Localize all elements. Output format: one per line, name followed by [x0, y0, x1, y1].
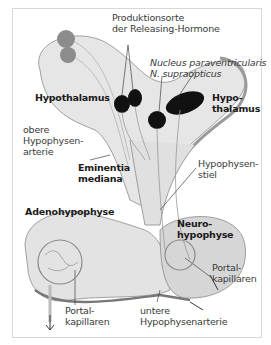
- label-hypothalamus-right: Hypo- thalamus: [212, 92, 260, 114]
- label-hypophysenstiel: Hypophysen- stiel: [198, 158, 258, 180]
- label-neurohypophyse: Neuro- hypophyse: [177, 218, 233, 240]
- label-produktionsorte: Produktionsorte der Releasing-Hormone: [112, 12, 220, 34]
- supraoptic-nucleus: [148, 111, 166, 129]
- label-portalkapillaren-right: Portal- kapillaren: [212, 262, 257, 284]
- label-hypothalamus-left: Hypothalamus: [35, 92, 110, 103]
- label-adenohypophyse: Adenohypophyse: [25, 206, 114, 217]
- releasing-hormone-neuron-1: [114, 95, 130, 113]
- label-eminentia-mediana: Eminentia mediana: [78, 162, 130, 184]
- label-portalkapillaren-left: Portal- kapillaren: [65, 305, 110, 327]
- label-obere-hypophysenarterie: obere Hypophysen- arterie: [23, 124, 83, 157]
- label-untere-hypophysenarterie: untere Hypophysenarterie: [140, 305, 227, 327]
- label-nucleus: Nucleus paraventricularis N. supraopticu…: [150, 57, 266, 79]
- releasing-hormone-neuron-2: [128, 89, 142, 107]
